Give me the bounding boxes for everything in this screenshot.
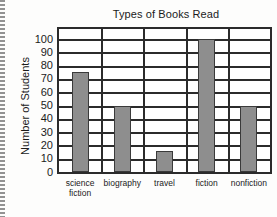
bar-chart-figure: Types of Books Read Number of Students 1…	[0, 0, 277, 217]
y-tick-label-80: 80	[27, 60, 53, 71]
chart-title: Types of Books Read	[56, 8, 276, 20]
y-tick-label-20: 20	[27, 140, 53, 151]
y-tick-label-90: 90	[27, 47, 53, 58]
y-tick-label-40: 40	[27, 113, 53, 124]
plot-area	[57, 27, 272, 174]
y-tick-label-50: 50	[27, 100, 53, 111]
bar-series	[59, 29, 270, 172]
bar-nonfiction	[240, 106, 257, 173]
bar-travel	[156, 151, 173, 172]
y-tick-label-100: 100	[27, 34, 53, 45]
y-tick-label-0: 0	[27, 167, 53, 178]
y-tick-label-70: 70	[27, 73, 53, 84]
bar-science-fiction	[72, 72, 89, 172]
bar-biography	[114, 106, 131, 173]
bar-fiction	[198, 39, 215, 172]
y-tick-label-60: 60	[27, 87, 53, 98]
y-tick-label-30: 30	[27, 127, 53, 138]
x-tick-label-nonfiction: nonfiction	[222, 178, 276, 188]
y-axis-tick-labels: 1009080706050403020100	[25, 27, 53, 174]
y-tick-label-10: 10	[27, 153, 53, 164]
x-axis-tick-labels: science fictionbiographytravelfictionnon…	[57, 178, 272, 214]
